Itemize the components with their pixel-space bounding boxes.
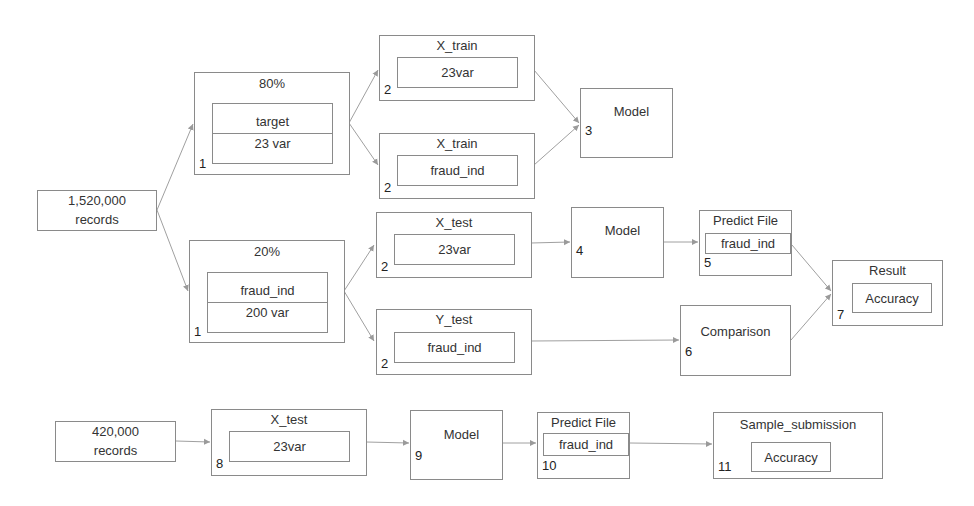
inner-field: 23var [397, 57, 518, 88]
edge-xtrain-vars-to-model3 [534, 70, 579, 123]
node-title: Model [582, 223, 663, 238]
edge-records-test-to-xtest8 [176, 441, 210, 442]
step-number: 1 [199, 156, 206, 171]
step-number: 2 [384, 82, 391, 97]
step-number: 5 [704, 255, 711, 270]
step-number: 7 [837, 307, 844, 322]
split-20-node: 20% fraud_ind 200 var 1 [189, 240, 345, 343]
node-title: Y_test [377, 312, 531, 327]
field-target: target [213, 114, 332, 129]
field-divider [213, 133, 332, 134]
node-title: Result [833, 263, 942, 278]
step-number: 6 [685, 344, 692, 359]
edge-predict5-to-result [792, 245, 831, 291]
field-vars: 200 var [208, 305, 327, 320]
split-80-fields: target 23 var [212, 103, 333, 164]
step-number: 10 [542, 458, 556, 473]
records-count: 420,000 [56, 422, 175, 442]
xtrain-fraud-node: X_train fraud_ind 2 [379, 133, 535, 199]
predict-file-10-node: Predict File fraud_ind 10 [537, 412, 630, 479]
sample-submission-11-node: Sample_submission Accuracy 11 [713, 412, 883, 479]
step-number: 8 [216, 456, 223, 471]
edge-comparison-to-result [791, 294, 831, 340]
xtest-8-node: X_test 23var 8 [211, 409, 367, 476]
step-number: 4 [576, 243, 583, 258]
edge-20-to-ytest [344, 291, 374, 341]
inner-field: 23var [229, 431, 350, 462]
edge-predict10-to-submission [630, 443, 712, 444]
edge-records-to-20 [157, 210, 188, 291]
step-number: 9 [415, 448, 422, 463]
node-title: X_test [377, 215, 531, 230]
records-test-node: 420,000 records [55, 421, 176, 462]
edge-80-to-xtrain-vars [349, 70, 378, 123]
result-7-node: Result Accuracy 7 [832, 260, 943, 326]
step-number: 11 [718, 459, 732, 474]
node-title: X_train [380, 136, 534, 151]
field-fraud-ind: fraud_ind [208, 283, 327, 298]
step-number: 1 [194, 324, 201, 339]
inner-field: fraud_ind [397, 155, 518, 186]
xtrain-vars-node: X_train 23var 2 [379, 35, 535, 101]
edge-records-to-80 [157, 124, 193, 210]
flow-diagram: 1,520,000 records 80% target 23 var 1 20… [0, 0, 974, 506]
model-3-node: Model 3 [580, 88, 673, 158]
inner-field: Accuracy [852, 283, 932, 313]
node-title: Comparison [681, 324, 790, 339]
records-label: records [56, 441, 175, 461]
node-title: Predict File [700, 213, 791, 228]
edge-xtest8-to-model9 [366, 442, 409, 443]
field-divider [208, 302, 327, 303]
inner-field: 23var [394, 234, 515, 265]
step-number: 2 [384, 180, 391, 195]
node-title: 80% [195, 76, 349, 91]
step-number: 2 [381, 356, 388, 371]
edge-xtrain-fraud-to-model3 [534, 125, 579, 165]
node-title: X_test [212, 412, 366, 427]
node-title: X_train [380, 38, 534, 53]
node-title: Model [421, 427, 502, 442]
inner-field: Accuracy [751, 442, 831, 472]
step-number: 3 [585, 123, 592, 138]
edge-ytest-to-comparison [531, 340, 679, 341]
ytest-fraud-node: Y_test fraud_ind 2 [376, 309, 532, 375]
edge-80-to-xtrain-fraud [349, 123, 378, 165]
node-title: Model [591, 104, 672, 119]
split-20-fields: fraud_ind 200 var [207, 272, 328, 333]
inner-field: fraud_ind [705, 233, 791, 254]
records-train-node: 1,520,000 records [37, 190, 157, 231]
split-80-node: 80% target 23 var 1 [194, 72, 350, 175]
step-number: 2 [381, 259, 388, 274]
model-9-node: Model 9 [410, 410, 503, 480]
comparison-6-node: Comparison 6 [680, 305, 791, 376]
node-title: Predict File [538, 415, 629, 430]
node-title: 20% [190, 244, 344, 259]
model-4-node: Model 4 [571, 207, 664, 278]
inner-field: fraud_ind [394, 332, 515, 363]
predict-file-5-node: Predict File fraud_ind 5 [699, 210, 792, 276]
records-label: records [38, 210, 156, 230]
xtest-vars-node: X_test 23var 2 [376, 212, 532, 278]
edge-xtest-to-model4 [531, 242, 570, 243]
edge-20-to-xtest [344, 245, 374, 291]
inner-field: fraud_ind [543, 433, 629, 456]
node-title: Sample_submission [714, 417, 882, 432]
field-vars: 23 var [213, 136, 332, 151]
records-count: 1,520,000 [38, 191, 156, 211]
